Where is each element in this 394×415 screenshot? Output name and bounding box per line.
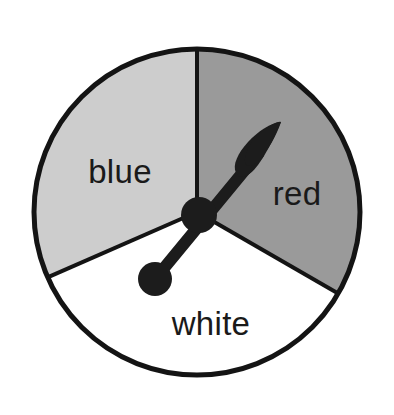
spinner-hub [181, 197, 217, 233]
spinner-graphic: blue red white [0, 0, 394, 415]
needle-tail-ball [138, 262, 172, 296]
sector-label-white: white [171, 305, 251, 342]
sector-label-red: red [273, 175, 322, 212]
spinner-figure: blue red white [0, 0, 394, 415]
sector-label-blue: blue [88, 153, 152, 190]
